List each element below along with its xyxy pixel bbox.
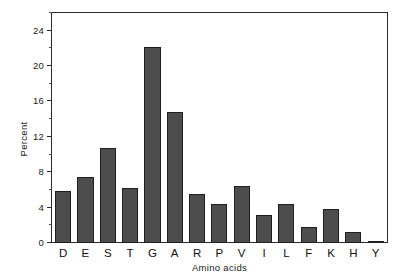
bar-R[interactable] [189,194,205,243]
bar-L[interactable] [278,204,294,243]
y-axis-tick-label: 24 [33,24,44,35]
x-axis-tick-label-P: P [208,245,230,261]
x-axis-tick-label-A: A [164,245,186,261]
bar-slot [320,13,342,243]
y-axis-tick-label: 8 [39,166,44,177]
bar-D[interactable] [55,191,71,243]
y-axis-tick-label: 4 [39,201,44,212]
bar-slot [365,13,387,243]
x-axis-tick-label-Y: Y [365,245,387,261]
bar-slot [119,13,141,243]
bar-slot [231,13,253,243]
x-axis-tick-label-L: L [275,245,297,261]
x-axis-tick-label-H: H [342,245,364,261]
bar-slot [253,13,275,243]
bar-slot [97,13,119,243]
y-axis-tick-label: 20 [33,60,44,71]
x-axis-tick-label-V: V [231,245,253,261]
bar-A[interactable] [167,112,183,243]
y-axis-title: Percent [18,122,29,157]
bar-F[interactable] [301,227,317,243]
x-axis-tick-label-K: K [320,245,342,261]
bar-slot [52,13,74,243]
y-axis-tick-label: 16 [33,95,44,106]
x-axis-tick-label-R: R [186,245,208,261]
bar-H[interactable] [345,232,361,244]
bar-V[interactable] [234,186,250,243]
bar-I[interactable] [256,215,272,243]
y-axis-tick-label: 12 [33,130,44,141]
bar-P[interactable] [211,204,227,243]
y-axis-tick-label: 0 [39,237,44,248]
bar-E[interactable] [77,177,93,243]
bar-G[interactable] [144,47,160,243]
x-axis-tick-label-T: T [119,245,141,261]
bar-chart-figure: Percent 04812162024 DESTGARPVILFKHY Amin… [0,0,399,278]
x-axis-tick-label-S: S [97,245,119,261]
bar-K[interactable] [323,209,339,244]
bar-slot [342,13,364,243]
bar-slot [208,13,230,243]
x-axis-tick-label-I: I [253,245,275,261]
bar-slot [141,13,163,243]
plot-area [52,13,387,243]
bar-T[interactable] [122,188,138,243]
bar-slot [275,13,297,243]
bar-slot [186,13,208,243]
bar-slot [74,13,96,243]
x-axis-title: Amino acids [52,262,387,273]
bar-series [52,13,387,243]
x-axis-tick-label-D: D [52,245,74,261]
x-axis-tick-label-F: F [298,245,320,261]
bar-S[interactable] [100,148,116,243]
bar-Y[interactable] [368,241,384,243]
bar-slot [164,13,186,243]
x-axis-tick-label-G: G [141,245,163,261]
x-axis-tick-label-E: E [74,245,96,261]
bar-slot [298,13,320,243]
x-axis-tick-labels: DESTGARPVILFKHY [52,245,387,261]
